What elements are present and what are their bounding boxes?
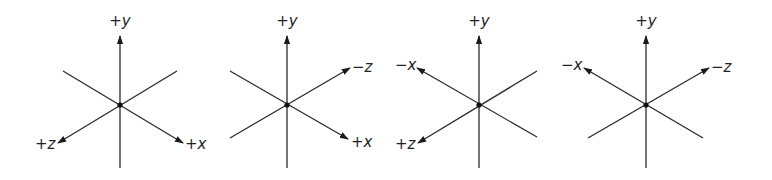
axis-line-z (588, 68, 709, 138)
axis-panel-3: +y−x+z (395, 12, 537, 168)
origin-dot (117, 102, 122, 107)
axis-line-z (230, 68, 350, 138)
axis-panel-2: +y−z+x (230, 12, 374, 168)
axis-panel-4: +y−x−z (561, 12, 733, 168)
axis-line-x (417, 68, 537, 137)
axis-label-y: +y (276, 12, 299, 30)
origin-dot (476, 102, 481, 107)
axis-label-x: +x (351, 133, 373, 151)
axis-line-x (63, 71, 183, 143)
axis-label-z: −z (352, 58, 374, 76)
origin-dot (643, 102, 648, 107)
axis-label-z: −z (711, 58, 733, 76)
axes-figure: +y+z+x+y−z+x+y−x+z+y−x−z (0, 0, 772, 180)
axis-label-y: +y (109, 12, 132, 30)
axis-label-y: +y (468, 12, 491, 30)
axis-label-x: −x (395, 56, 417, 74)
origin-dot (284, 102, 289, 107)
axis-label-x: +x (185, 135, 207, 153)
axis-label-z: +z (35, 135, 57, 153)
axis-line-x (584, 68, 703, 138)
axis-label-z: +z (395, 135, 417, 153)
axis-line-z (58, 71, 177, 143)
axis-panel-1: +y+z+x (35, 12, 207, 168)
axis-label-y: +y (635, 12, 658, 30)
axis-label-x: −x (561, 56, 583, 74)
